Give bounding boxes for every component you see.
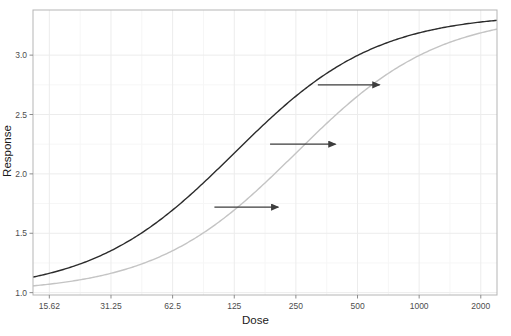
y-tick-label: 1.5	[15, 228, 27, 238]
y-axis-ticks: 1.01.52.02.53.0	[15, 50, 33, 298]
x-axis-label: Dose	[0, 314, 511, 326]
y-tick-label: 1.0	[15, 288, 27, 298]
x-tick-label: 15.62	[39, 301, 61, 311]
x-tick-label: 500	[350, 301, 364, 311]
x-axis-ticks: 15.6231.2562.512525050010002000	[39, 295, 491, 311]
x-tick-label: 2000	[471, 301, 490, 311]
x-tick-label: 1000	[410, 301, 429, 311]
y-axis-label: Response	[1, 106, 13, 196]
x-tick-label: 31.25	[100, 301, 122, 311]
x-tick-label: 62.5	[164, 301, 181, 311]
x-tick-label: 125	[227, 301, 241, 311]
chart-container: 15.6231.2562.512525050010002000 1.01.52.…	[0, 0, 511, 336]
y-tick-label: 2.0	[15, 169, 27, 179]
chart-plot-area: 15.6231.2562.512525050010002000 1.01.52.…	[0, 0, 511, 336]
y-tick-label: 2.5	[15, 110, 27, 120]
x-tick-label: 250	[289, 301, 303, 311]
y-tick-label: 3.0	[15, 50, 27, 60]
